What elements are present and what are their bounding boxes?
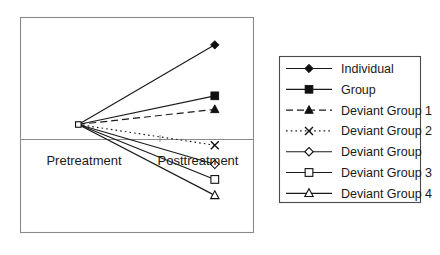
line-chart-figure: Pretreatment Posttreatment IndividualGro… xyxy=(0,0,440,255)
legend-label: Group xyxy=(341,83,376,97)
legend-label: Individual xyxy=(341,62,394,76)
marker-open-square xyxy=(305,169,313,177)
marker-open-square xyxy=(211,176,219,184)
marker-open-square xyxy=(76,122,82,128)
legend-label: Deviant Group 2 xyxy=(341,124,432,138)
legend-label: Deviant Group 4 xyxy=(341,187,432,201)
legend-label: Deviant Group 1 xyxy=(341,104,432,118)
legend: IndividualGroupDeviant Group 1Deviant Gr… xyxy=(280,57,433,203)
marker-filled-square xyxy=(211,92,219,100)
legend-label: Deviant Group xyxy=(341,145,422,159)
marker-filled-square xyxy=(305,85,313,93)
x-label-pretreatment: Pretreatment xyxy=(46,153,122,168)
legend-label: Deviant Group 3 xyxy=(341,166,432,180)
x-label-posttreatment: Posttreatment xyxy=(158,153,239,168)
